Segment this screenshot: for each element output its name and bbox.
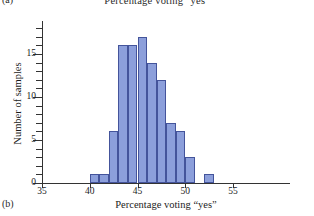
- histogram-bar: [204, 174, 214, 183]
- histogram-bar: [128, 45, 138, 183]
- histogram-bar: [109, 131, 119, 183]
- y-axis-title: Number of samples: [12, 39, 23, 169]
- histogram-bar: [147, 63, 157, 183]
- histogram-plot: 051015 3540455055 Number of samples Perc…: [0, 0, 314, 216]
- histogram-bar: [166, 123, 176, 183]
- histogram-bar: [176, 131, 186, 183]
- x-axis-title: Percentage voting “yes”: [42, 199, 290, 210]
- histogram-bar: [99, 174, 109, 183]
- histogram-bars: [0, 0, 314, 216]
- histogram-bar: [157, 80, 167, 183]
- histogram-bar: [118, 45, 128, 183]
- panel-label-b: (b): [2, 198, 14, 209]
- histogram-bar: [185, 157, 195, 183]
- histogram-bar: [90, 174, 100, 183]
- histogram-bar: [138, 37, 148, 183]
